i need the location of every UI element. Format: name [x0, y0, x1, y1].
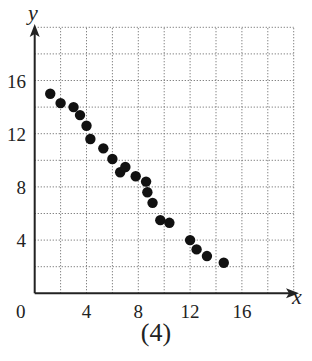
- plot-area: 0481216481216 x y: [0, 0, 312, 361]
- data-point: [202, 251, 212, 261]
- data-point: [55, 98, 65, 108]
- tick-labels: 0481216481216: [7, 71, 251, 323]
- data-point: [141, 176, 151, 186]
- figure-caption: (4): [0, 318, 312, 348]
- scatter-chart: 0481216481216 x y (4): [0, 0, 312, 361]
- data-point: [155, 215, 165, 225]
- data-point: [219, 258, 229, 268]
- y-tick-label: 8: [17, 177, 27, 198]
- data-points: [45, 89, 229, 268]
- data-point: [131, 171, 141, 181]
- data-point: [85, 134, 95, 144]
- grid-lines: [35, 27, 294, 293]
- data-point: [191, 244, 201, 254]
- data-point: [45, 89, 55, 99]
- y-axis-title: y: [26, 0, 38, 25]
- y-tick-label: 16: [7, 71, 26, 92]
- data-point: [107, 154, 117, 164]
- data-point: [81, 121, 91, 131]
- data-point: [75, 110, 85, 120]
- data-point: [120, 162, 130, 172]
- data-point: [164, 218, 174, 228]
- y-tick-label: 4: [17, 230, 27, 251]
- y-tick-label: 12: [7, 124, 26, 145]
- x-axis-title: x: [291, 284, 302, 309]
- data-point: [98, 143, 108, 153]
- data-point: [147, 198, 157, 208]
- data-point: [142, 187, 152, 197]
- data-point: [185, 235, 195, 245]
